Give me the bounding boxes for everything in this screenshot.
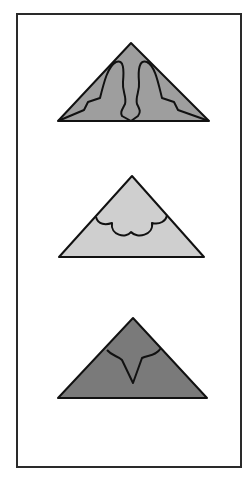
triangle-3 [58,318,207,398]
folded-triangles-diagram [0,0,252,481]
triangle-2 [59,176,204,257]
triangle-1 [58,43,209,121]
